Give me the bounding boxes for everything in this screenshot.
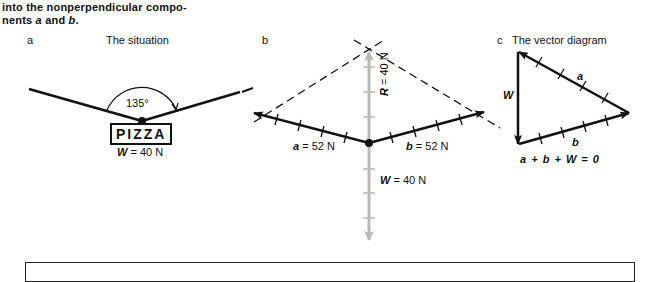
panel-b-force-diagram: R = 40 N [242,40,500,240]
dashed-construction-line [242,88,253,92]
triangle-b-label: b [572,136,579,148]
vector-b-symbol: b [406,140,413,152]
vector-equation: a + b + W = 0 [520,153,599,165]
triangle-a-arrow [519,52,629,113]
right-rope [142,92,240,121]
weight-value: = 40 N [390,174,426,186]
panel-a-weight-label: W = 40 N [117,146,163,158]
next-figure-box [25,262,635,282]
dashed-construction-line [254,40,384,122]
pizza-label: PIZZA [116,126,166,142]
vector-a-arrow [254,113,369,143]
angle-label: 135° [126,97,149,109]
weight-value: = 40 N [127,146,163,158]
triangle-a-label: a [577,70,583,82]
vector-a-label: a = 52 N [293,140,335,152]
vector-b-arrow [369,112,484,143]
vector-b-value: = 52 N [413,140,449,152]
panel-b-weight-label: W = 40 N [380,174,426,186]
center-dot [365,139,373,147]
triangle-ticks [536,57,608,144]
vector-a-value: = 52 N [299,140,335,152]
weight-symbol: W [380,174,390,186]
resultant-label: R = 40 N [378,52,390,96]
vector-b-label: b = 52 N [406,140,449,152]
weight-symbol: W [117,146,127,158]
panel-c-vector-triangle [518,52,629,144]
triangle-w-label: W [503,89,513,101]
